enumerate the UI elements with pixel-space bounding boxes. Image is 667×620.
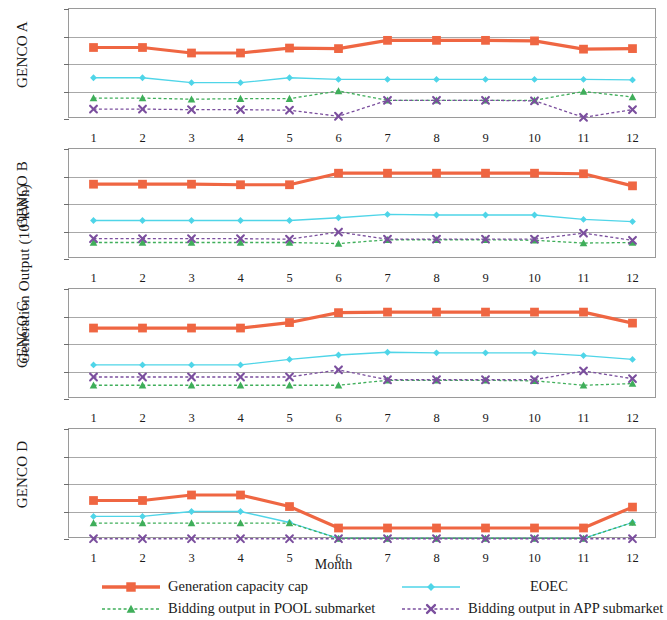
data-point: [334, 524, 343, 533]
data-point: [139, 362, 146, 369]
chart-legend: Generation capacity capEOECBidding outpu…: [70, 578, 660, 620]
data-point: [285, 318, 294, 327]
y-tick-mark: [64, 259, 69, 260]
legend-item-eoec[interactable]: EOEC: [400, 578, 568, 595]
series-line: [94, 512, 633, 539]
y-tick-mark: [64, 539, 69, 540]
data-point: [384, 76, 391, 83]
data-point: [334, 44, 343, 53]
data-point: [286, 381, 294, 388]
data-point: [383, 36, 392, 45]
series-line: [94, 40, 633, 53]
data-point: [237, 381, 245, 388]
series-generation-capacity-cap: [89, 36, 637, 57]
data-point: [286, 217, 293, 224]
data-point: [236, 324, 245, 333]
data-point: [90, 513, 97, 520]
data-point: [89, 180, 98, 189]
legend-label: EOEC: [462, 578, 568, 595]
data-point: [384, 349, 391, 356]
chart-panel-genco-b: GENCO B05101520123456789101112: [0, 140, 667, 280]
data-point: [629, 93, 637, 100]
legend-item-generation-capacity-cap[interactable]: Generation capacity cap: [100, 578, 308, 595]
data-point: [481, 169, 490, 178]
series-line: [94, 312, 633, 328]
data-point: [285, 44, 294, 53]
data-point: [286, 107, 293, 114]
data-point: [628, 319, 637, 328]
data-point: [433, 349, 440, 356]
series-line: [94, 91, 633, 100]
data-point: [89, 43, 98, 52]
data-point: [138, 180, 147, 189]
data-point: [580, 352, 587, 359]
legend-item-bidding-output-in-app-submarket[interactable]: Bidding output in APP submarket: [400, 600, 663, 617]
data-point: [138, 43, 147, 52]
data-point: [530, 37, 539, 46]
series-line: [94, 352, 633, 365]
data-point: [187, 180, 196, 189]
series-bidding-output-in-pool-submarket: [90, 87, 637, 103]
series-eoec: [90, 74, 636, 86]
data-point: [286, 74, 293, 81]
series-layer: [69, 289, 657, 399]
y-tick-mark: [64, 399, 69, 400]
data-point: [188, 217, 195, 224]
series-eoec: [90, 349, 636, 368]
data-point: [90, 362, 97, 369]
series-layer: [69, 429, 657, 539]
data-point: [89, 324, 98, 333]
data-point: [188, 374, 195, 381]
series-line: [94, 232, 633, 240]
data-point: [188, 106, 195, 113]
plot-area: 05101520123456789101112: [68, 8, 656, 118]
data-point: [89, 496, 98, 505]
data-point: [383, 169, 392, 178]
data-point: [236, 491, 245, 500]
panel-title-genco-d: GENCO D: [14, 427, 31, 523]
data-point: [188, 508, 195, 515]
data-point: [481, 36, 490, 45]
triangle-marker-icon: [100, 601, 162, 617]
series-bidding-output-in-app-submarket: [90, 97, 636, 121]
data-point: [481, 524, 490, 533]
legend-item-bidding-output-in-pool-submarket[interactable]: Bidding output in POOL submarket: [100, 600, 375, 617]
data-point: [530, 169, 539, 178]
data-point: [237, 95, 245, 102]
data-point: [335, 352, 342, 359]
data-point: [580, 88, 588, 95]
data-point: [335, 214, 342, 221]
y-tick-mark: [64, 119, 69, 120]
legend-label: Generation capacity cap: [162, 578, 308, 595]
data-point: [188, 79, 195, 86]
data-point: [139, 513, 146, 520]
data-point: [335, 240, 343, 247]
data-point: [237, 217, 244, 224]
chart-panel-genco-a: GENCO A05101520123456789101112: [0, 0, 667, 140]
series-line: [94, 78, 633, 83]
data-point: [286, 374, 293, 381]
data-point: [237, 508, 244, 515]
data-point: [139, 94, 147, 101]
data-point: [90, 74, 97, 81]
data-point: [383, 524, 392, 533]
data-point: [334, 169, 343, 178]
legend-label: Bidding output in POOL submarket: [162, 600, 375, 617]
chart-panel-genco-c: GENCO C05101520123456789101112: [0, 280, 667, 420]
data-point: [237, 362, 244, 369]
data-point: [334, 308, 343, 317]
series-line: [94, 100, 633, 117]
series-bidding-output-in-pool-submarket: [90, 236, 637, 247]
series-generation-capacity-cap: [89, 308, 637, 333]
data-point: [237, 79, 244, 86]
data-point: [187, 324, 196, 333]
data-point: [335, 381, 343, 388]
data-point: [530, 308, 539, 317]
series-bidding-output-in-app-submarket: [90, 366, 636, 383]
data-point: [629, 77, 636, 84]
series-bidding-output-in-pool-submarket: [90, 377, 637, 389]
data-point: [432, 308, 441, 317]
data-point: [531, 349, 538, 356]
series-line: [94, 380, 633, 385]
data-point: [432, 36, 441, 45]
